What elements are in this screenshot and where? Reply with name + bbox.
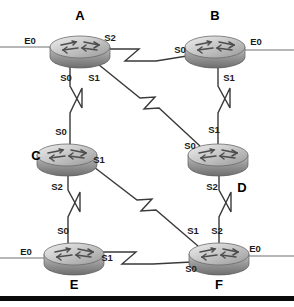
port-label-e-e0: E0 — [20, 246, 32, 257]
router-label-c: C — [31, 148, 41, 163]
router-label-d: D — [237, 180, 246, 195]
port-label-a-e0: E0 — [24, 35, 36, 46]
port-label-c-s2: S2 — [51, 181, 63, 192]
router-label-f: F — [215, 277, 223, 292]
port-label-a-s0: S0 — [60, 72, 72, 83]
port-label-e-s0: S0 — [57, 225, 69, 236]
router-icon-e[interactable] — [44, 243, 104, 275]
router-icon-d[interactable] — [188, 144, 248, 176]
port-label-d-s2: S2 — [206, 181, 218, 192]
router-label-e: E — [70, 277, 79, 292]
port-label-a-s2: S2 — [104, 32, 116, 43]
port-label-f-s2: S2 — [211, 225, 223, 236]
port-label-d-s1: S1 — [208, 124, 220, 135]
router-label-a: A — [75, 8, 85, 23]
port-label-e-s1: S1 — [101, 252, 113, 263]
port-label-b-s1: S1 — [223, 72, 235, 83]
port-label-f-s1: S1 — [187, 225, 199, 236]
router-icon-c[interactable] — [37, 144, 97, 176]
port-label-d-s0: S0 — [184, 140, 196, 151]
port-label-f-e0: E0 — [249, 243, 261, 254]
port-label-b-s0: S0 — [174, 44, 186, 55]
router-label-b: B — [210, 8, 219, 23]
topology-canvas: A B C D E F E0 S2 S0 S1 S0 E0 S1 S0 S1 S… — [0, 0, 294, 307]
port-label-a-s1: S1 — [88, 72, 100, 83]
router-icon-b[interactable] — [185, 36, 245, 68]
link-e-f — [102, 252, 192, 264]
port-label-f-s0: S0 — [185, 263, 197, 274]
link-c-f — [90, 164, 198, 246]
port-label-c-s1: S1 — [93, 154, 105, 165]
router-icon-a[interactable] — [50, 36, 110, 68]
link-a-d — [93, 60, 200, 146]
port-label-b-e0: E0 — [250, 36, 262, 47]
bottom-divider-bar — [0, 296, 294, 301]
router-icon-f[interactable] — [189, 243, 249, 275]
link-c-e — [68, 166, 80, 244]
network-topology-diagram: A B C D E F E0 S2 S0 S1 S0 E0 S1 S0 S1 S… — [0, 0, 294, 307]
port-label-c-s0: S0 — [55, 126, 67, 137]
